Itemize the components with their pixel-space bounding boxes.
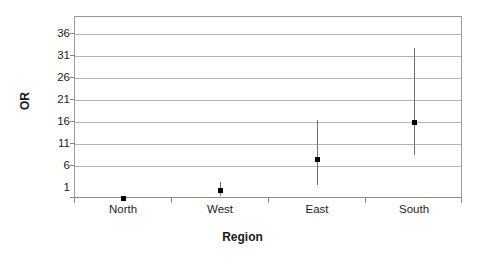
x-axis-title: Region	[0, 230, 485, 244]
y-tick-label: 6	[36, 160, 70, 172]
gridline	[75, 34, 461, 35]
y-tick-mark	[70, 143, 75, 144]
gridline	[75, 78, 461, 79]
x-tick-mark	[74, 198, 75, 203]
x-tick-mark	[171, 198, 172, 203]
x-tick-label-east: East	[272, 204, 362, 216]
gridline	[75, 56, 461, 57]
y-tick-label: 16	[36, 116, 70, 128]
gridline	[75, 144, 461, 145]
y-tick-mark	[70, 121, 75, 122]
x-tick-mark	[461, 198, 462, 203]
x-tick-label-north: North	[78, 204, 168, 216]
plot-area	[74, 16, 462, 198]
y-axis-tick-labels: 36 31 26 21 16 11 6 1	[32, 0, 70, 262]
y-axis-title: OR	[18, 90, 32, 112]
x-tick-label-west: West	[175, 204, 265, 216]
y-tick-mark	[70, 165, 75, 166]
y-tick-label: 21	[36, 94, 70, 106]
y-tick-label: 31	[36, 50, 70, 62]
y-tick-mark	[70, 99, 75, 100]
x-tick-mark	[365, 198, 366, 203]
y-tick-label: 26	[36, 72, 70, 84]
y-tick-mark	[70, 77, 75, 78]
y-tick-mark	[70, 55, 75, 56]
x-tick-label-south: South	[369, 204, 459, 216]
chart-figure: OR 36 31 26 21 16 11 6 1 North West East…	[0, 0, 485, 262]
gridline	[75, 100, 461, 101]
gridline	[75, 166, 461, 167]
gridline	[75, 122, 461, 123]
y-tick-label: 36	[36, 28, 70, 40]
y-tick-label: 11	[36, 138, 70, 150]
y-tick-label: 1	[36, 182, 70, 194]
y-tick-mark	[70, 33, 75, 34]
x-tick-mark	[268, 198, 269, 203]
